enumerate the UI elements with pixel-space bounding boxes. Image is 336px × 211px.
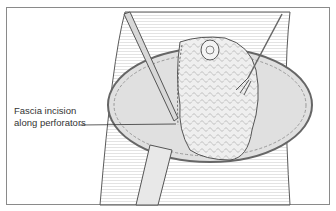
annotation-label-line1: Fascia incision [14,105,76,116]
annotation-label-line2: along perforators [14,117,86,128]
umbilicus [201,40,219,60]
medical-illustration: Fascia incision along perforators [0,0,336,211]
